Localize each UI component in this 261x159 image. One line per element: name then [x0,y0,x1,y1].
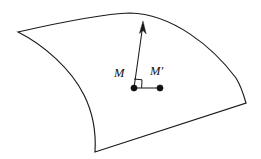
point-m-label: M [113,66,125,80]
surface-diagram: M M′ [0,0,261,159]
point-m-prime-label: M′ [149,64,163,79]
point-m-prime-dot [157,85,163,91]
figure-canvas: M M′ [0,0,261,159]
point-m-prime-letter: M [149,64,161,78]
point-m-dot [131,85,137,91]
curved-surface-patch [18,13,246,152]
prime-glyph: ′ [160,64,163,78]
